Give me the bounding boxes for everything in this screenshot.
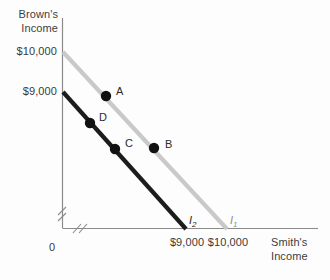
curve-i2 [63,92,186,229]
y-tick-label-9000: $9,000 [0,85,57,98]
y-axis-title: Brown's Income [0,8,58,35]
curve-label-i2-sub: 2 [192,220,196,229]
data-point-b [149,143,159,153]
point-label-b: B [165,138,172,150]
curve-i1 [63,52,227,229]
data-point-a [101,91,111,101]
y-axis-title-line1: Brown's [0,8,58,22]
point-label-c: C [125,137,133,149]
indifference-curve-chart: Brown's Income $10,000 $9,000 0 $9,000 $… [0,0,330,280]
x-axis-title-line2: Income [271,250,308,264]
point-label-d: D [99,111,107,123]
curve-label-i2: I2 [189,214,197,229]
curve-label-i1-sub: 1 [233,220,237,229]
y-axis-title-line2: Income [0,22,58,36]
data-point-c [110,144,120,154]
x-axis-title: Smith's Income [271,236,308,263]
point-label-a: A [116,85,123,97]
curve-label-i1: I1 [230,214,238,229]
origin-label: 0 [49,241,55,253]
x-axis-title-line1: Smith's [271,236,308,250]
x-tick-label-10000: $10,000 [200,236,256,249]
data-point-d [85,118,95,128]
y-tick-label-10000: $10,000 [0,45,57,58]
